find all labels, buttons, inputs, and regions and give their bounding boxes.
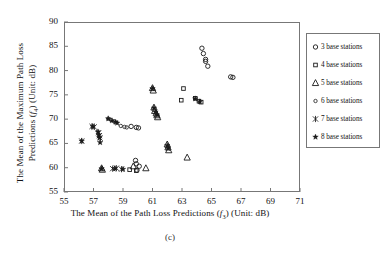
y-tick-label: 65 xyxy=(38,137,58,147)
x-tick-label: 71 xyxy=(290,196,310,206)
square-icon xyxy=(310,58,321,72)
legend-label: 4 base stations xyxy=(321,61,362,69)
x-tick-label: 55 xyxy=(54,196,74,206)
legend-label: 3 base stations xyxy=(321,43,362,51)
y-tick-label: 85 xyxy=(38,40,58,50)
legend-item-8-base-stations[interactable]: 8 base stations xyxy=(307,128,379,146)
legend-label: 6 base stations xyxy=(321,97,362,105)
data-point xyxy=(179,98,183,102)
data-points xyxy=(79,46,235,172)
legend-item-7-base-stations[interactable]: 7 base stations xyxy=(307,110,379,128)
figure-caption: (c) xyxy=(40,232,300,242)
legend-item-4-base-stations[interactable]: 4 base stations xyxy=(307,56,379,74)
data-point xyxy=(313,134,319,139)
data-point xyxy=(314,99,317,102)
data-point xyxy=(129,124,133,128)
y-tick-label: 90 xyxy=(38,16,58,26)
y-tick-label: 55 xyxy=(38,186,58,196)
x-tick-label: 57 xyxy=(84,196,104,206)
data-point xyxy=(312,80,318,86)
x-tick-label: 67 xyxy=(231,196,251,206)
legend-label: 8 base stations xyxy=(321,133,362,141)
star-icon xyxy=(310,130,321,144)
small-circle-icon xyxy=(310,94,321,108)
x-tick-label: 69 xyxy=(261,196,281,206)
data-point xyxy=(119,124,122,127)
data-point xyxy=(201,51,205,55)
axis-ticks xyxy=(64,22,300,192)
y-tick-label: 80 xyxy=(38,65,58,75)
x-tick-label: 63 xyxy=(172,196,192,206)
y-tick-label: 75 xyxy=(38,89,58,99)
data-point xyxy=(314,63,318,67)
triangle-icon xyxy=(310,76,321,90)
data-point xyxy=(143,165,149,171)
legend[interactable]: 3 base stations4 base stations5 base sta… xyxy=(306,33,380,148)
data-point xyxy=(200,46,204,50)
legend-item-6-base-stations[interactable]: 6 base stations xyxy=(307,92,379,110)
asterisk-icon xyxy=(310,112,321,126)
x-tick-label: 59 xyxy=(113,196,133,206)
scatter-figure: The Mean of the Maximum Path Loss Predic… xyxy=(0,0,385,257)
legend-label: 5 base stations xyxy=(321,79,362,87)
legend-item-3-base-stations[interactable]: 3 base stations xyxy=(307,38,379,56)
data-point xyxy=(313,116,318,122)
y-tick-label: 60 xyxy=(38,162,58,172)
x-tick-label: 65 xyxy=(202,196,222,206)
data-point xyxy=(125,126,128,129)
circle-dot-icon xyxy=(310,40,321,54)
data-point xyxy=(99,166,105,171)
x-tick-label: 61 xyxy=(143,196,163,206)
legend-item-5-base-stations[interactable]: 5 base stations xyxy=(307,74,379,92)
data-point xyxy=(206,64,210,68)
legend-label: 7 base stations xyxy=(321,115,362,123)
data-point xyxy=(184,154,190,160)
data-point xyxy=(182,87,186,91)
data-point xyxy=(313,45,317,49)
y-tick-label: 70 xyxy=(38,113,58,123)
